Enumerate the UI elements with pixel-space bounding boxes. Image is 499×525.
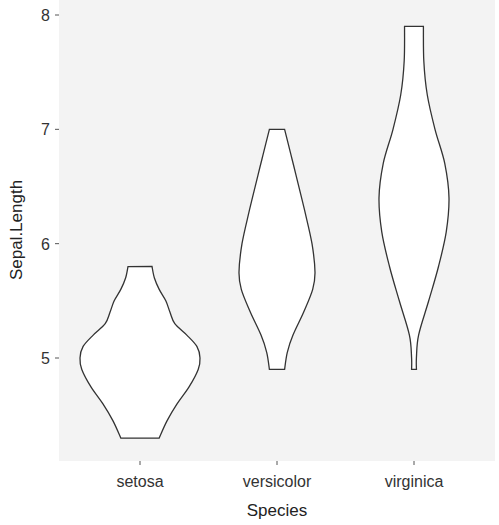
x-tick-label-virginica: virginica (385, 473, 444, 490)
violin-chart: 5678 setosaversicolorvirginica Species S… (0, 0, 499, 525)
y-tick-label: 8 (41, 7, 50, 24)
x-axis: setosaversicolorvirginica (116, 461, 443, 490)
x-tick-label-versicolor: versicolor (243, 473, 312, 490)
y-axis-title: Sepal.Length (7, 180, 26, 280)
x-axis-title: Species (247, 501, 307, 520)
y-tick-label: 5 (41, 350, 50, 367)
y-tick-label: 7 (41, 121, 50, 138)
y-axis: 5678 (41, 7, 59, 367)
y-tick-label: 6 (41, 236, 50, 253)
x-tick-label-setosa: setosa (116, 473, 163, 490)
